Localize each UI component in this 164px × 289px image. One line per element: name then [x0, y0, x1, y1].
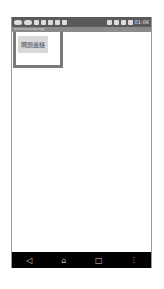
- download-icon: [55, 20, 60, 25]
- menu-icon[interactable]: ⋮: [127, 253, 141, 267]
- image-icon: [62, 20, 67, 25]
- status-time: 01:06: [135, 17, 149, 27]
- report-problem-button[interactable]: 問題連絡: [18, 36, 48, 53]
- navigation-bar: ◁ ⌂ □ ⋮: [12, 252, 151, 268]
- message-icon: [14, 20, 22, 25]
- settings-icon: [48, 20, 53, 25]
- cast-icon: [24, 20, 32, 25]
- status-bar: 01:06: [12, 17, 151, 27]
- battery-icon: [128, 20, 133, 25]
- wifi-icon: [114, 20, 119, 25]
- nfc-icon: [107, 20, 112, 25]
- facebook-icon: [41, 20, 46, 25]
- recents-icon[interactable]: □: [92, 253, 106, 267]
- highlight-overlay: 問題連絡: [13, 32, 63, 68]
- phone-screen: 01:06 Antichronsmdiscopp 問題連絡 ◁ ⌂ □ ⋮: [11, 17, 152, 268]
- signal-icon: [121, 20, 126, 25]
- back-icon[interactable]: ◁: [22, 253, 36, 267]
- location-icon: [34, 20, 39, 25]
- home-icon[interactable]: ⌂: [57, 253, 71, 267]
